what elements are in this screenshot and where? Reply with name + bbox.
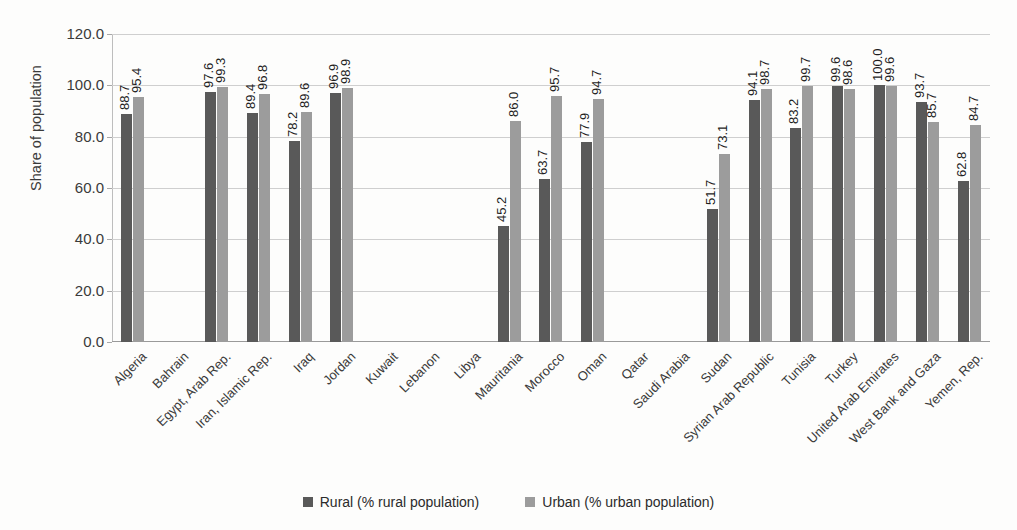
bar-rural[interactable] — [790, 128, 801, 342]
bar-urban[interactable] — [970, 125, 981, 342]
bar-group — [405, 34, 447, 342]
y-tick-label: 80.0 — [44, 129, 104, 144]
bar-group: 94.198.7 — [739, 34, 781, 342]
y-tick-label: 20.0 — [44, 283, 104, 298]
bar-rural[interactable] — [874, 85, 885, 342]
bar-value-label: 96.8 — [256, 64, 269, 89]
legend-label: Rural (% rural population) — [320, 494, 480, 510]
bar-value-label: 95.7 — [548, 67, 561, 92]
bar-urban[interactable] — [844, 89, 855, 342]
plot-area: 88.795.497.699.389.496.878.289.696.998.9… — [112, 34, 990, 342]
bar-group — [656, 34, 698, 342]
legend-item[interactable]: Urban (% urban population) — [525, 494, 714, 510]
bar-rural[interactable] — [749, 100, 760, 342]
bar-group: 96.998.9 — [321, 34, 363, 342]
legend-label: Urban (% urban population) — [542, 494, 714, 510]
bar-rural[interactable] — [330, 93, 341, 342]
bar-group: 83.299.7 — [781, 34, 823, 342]
bar-group: 63.795.7 — [530, 34, 572, 342]
bar-value-label: 98.6 — [841, 60, 854, 85]
bar-urban[interactable] — [301, 112, 312, 342]
bar-group: 78.289.6 — [279, 34, 321, 342]
y-tick-mark — [107, 342, 112, 343]
bar-value-label: 77.9 — [578, 113, 591, 138]
y-tick-label: 40.0 — [44, 231, 104, 246]
y-tick-label: 120.0 — [44, 26, 104, 41]
legend-item[interactable]: Rural (% rural population) — [303, 494, 480, 510]
bar-urban[interactable] — [551, 96, 562, 342]
bar-rural[interactable] — [121, 114, 132, 342]
bar-urban[interactable] — [510, 121, 521, 342]
bar-urban[interactable] — [133, 97, 144, 342]
bar-value-label: 62.8 — [955, 152, 968, 177]
bar-value-label: 84.7 — [967, 95, 980, 120]
bar-value-label: 45.2 — [495, 197, 508, 222]
bar-chart: Share of population 0.020.040.060.080.01… — [0, 0, 1017, 530]
bar-urban[interactable] — [217, 87, 228, 342]
bar-rural[interactable] — [958, 181, 969, 342]
bar-value-label: 99.7 — [799, 57, 812, 82]
bar-rural[interactable] — [205, 92, 216, 343]
bar-group — [614, 34, 656, 342]
bar-rural[interactable] — [247, 113, 258, 342]
bar-value-label: 99.3 — [214, 58, 227, 83]
bar-rural[interactable] — [289, 141, 300, 342]
bar-group: 89.496.8 — [237, 34, 279, 342]
bar-value-label: 89.6 — [298, 83, 311, 108]
bar-value-label: 94.7 — [590, 70, 603, 95]
bar-group: 51.773.1 — [697, 34, 739, 342]
bar-group: 100.099.6 — [865, 34, 907, 342]
bar-rural[interactable] — [539, 179, 550, 342]
bar-value-label: 78.2 — [286, 112, 299, 137]
bar-urban[interactable] — [342, 88, 353, 342]
legend-swatch-icon — [525, 497, 535, 507]
bar-urban[interactable] — [928, 122, 939, 342]
bar-value-label: 83.2 — [787, 99, 800, 124]
bar-urban[interactable] — [802, 86, 813, 342]
y-tick-label: 0.0 — [44, 334, 104, 349]
bar-urban[interactable] — [259, 94, 270, 342]
bar-rural[interactable] — [916, 102, 927, 342]
bar-urban[interactable] — [719, 154, 730, 342]
y-axis-title: Share of population — [28, 8, 44, 248]
chart-legend: Rural (% rural population)Urban (% urban… — [0, 494, 1017, 510]
bar-value-label: 85.7 — [925, 93, 938, 118]
bar-group: 99.698.6 — [823, 34, 865, 342]
bar-value-label: 98.9 — [339, 59, 352, 84]
bar-rural[interactable] — [498, 226, 509, 342]
y-tick-label: 60.0 — [44, 180, 104, 195]
bar-value-label: 95.4 — [130, 68, 143, 93]
bar-rural[interactable] — [832, 86, 843, 342]
bar-group: 62.884.7 — [948, 34, 990, 342]
bar-urban[interactable] — [761, 89, 772, 342]
bar-value-label: 73.1 — [716, 125, 729, 150]
bar-group — [363, 34, 405, 342]
legend-swatch-icon — [303, 497, 313, 507]
bar-value-label: 63.7 — [536, 149, 549, 174]
bar-group: 88.795.4 — [112, 34, 154, 342]
bar-group: 97.699.3 — [196, 34, 238, 342]
bar-rural[interactable] — [581, 142, 592, 342]
bar-value-label: 98.7 — [758, 59, 771, 84]
bar-group: 93.785.7 — [906, 34, 948, 342]
bar-value-label: 86.0 — [507, 92, 520, 117]
bar-value-label: 51.7 — [704, 180, 717, 205]
bar-rural[interactable] — [707, 209, 718, 342]
bar-urban[interactable] — [886, 86, 897, 342]
bar-group — [446, 34, 488, 342]
bar-group: 77.994.7 — [572, 34, 614, 342]
bar-group — [154, 34, 196, 342]
y-tick-label: 100.0 — [44, 77, 104, 92]
bar-value-label: 99.6 — [883, 57, 896, 82]
bar-urban[interactable] — [593, 99, 604, 342]
bar-group: 45.286.0 — [488, 34, 530, 342]
